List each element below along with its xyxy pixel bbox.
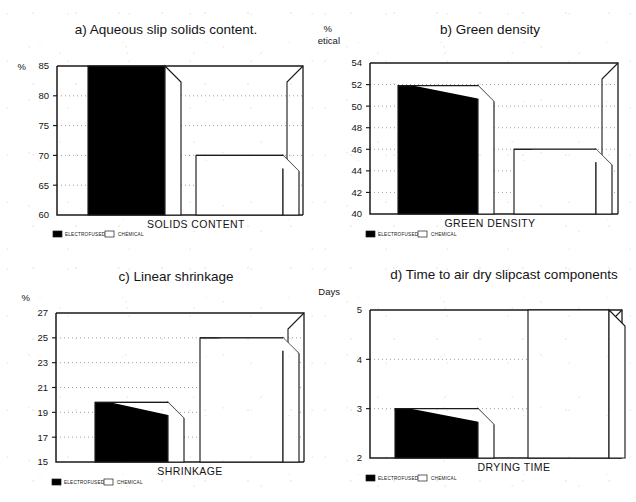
y-axis-tick-label: 27 [37, 307, 48, 318]
bar-chemical [528, 310, 625, 458]
y-axis-tick-label: 40 [351, 208, 362, 219]
y-axis-tick-label: 65 [38, 180, 49, 191]
figure-grid: a) Aqueous slip solids content.%60657075… [0, 0, 636, 502]
chart-panel-b: b) Green density%Theoretical404244464850… [318, 0, 636, 255]
bar-electrofused [95, 402, 184, 462]
bar-electrofused [398, 86, 494, 214]
bar-front-face [200, 338, 283, 462]
legend-label-chemical: CHEMICAL [118, 232, 144, 237]
y-axis-tick-label: 52 [351, 79, 362, 90]
y-axis-tick-label: 5 [357, 304, 362, 315]
legend: ELECTROFUSEDCHEMICAL [52, 479, 143, 485]
legend-label-electrofused: ELECTROFUSED [378, 232, 419, 237]
bar-side-face [478, 86, 494, 214]
y-axis-tick-label: 2 [357, 452, 362, 463]
bar-side-face [283, 338, 299, 462]
y-axis-tick-label: 15 [37, 456, 48, 467]
chart-panel-c: c) Linear shrinkage%15171921232527SHRINK… [0, 255, 318, 502]
y-axis-tick-label: 23 [37, 357, 48, 368]
y-axis-tick-label: 70 [38, 150, 49, 161]
y-axis-tick-label: 46 [351, 144, 362, 155]
y-axis-tick-label: 17 [37, 432, 48, 443]
legend-swatch-electrofused [52, 479, 61, 485]
y-axis-tick-label: 85 [38, 60, 49, 71]
bar-chemical [200, 338, 299, 462]
y-axis-tick-label: 42 [351, 187, 362, 198]
x-axis-label: SHRINKAGE [157, 465, 222, 477]
legend-swatch-chemical [418, 475, 427, 481]
bar-side-face [609, 310, 625, 458]
bar-chemical [196, 155, 299, 215]
y-axis-tick-label: 4 [357, 354, 362, 365]
x-axis-label: SOLIDS CONTENT [147, 218, 245, 230]
y-axis-label: % [324, 23, 333, 34]
chart-panel-a: a) Aqueous slip solids content.%60657075… [0, 0, 318, 255]
bar-side-face [165, 66, 181, 215]
legend-swatch-chemical [104, 479, 113, 485]
legend-label-electrofused: ELECTROFUSED [64, 480, 105, 485]
y-axis-tick-label: 75 [38, 120, 49, 131]
y-axis-tick-label: 3 [357, 403, 362, 414]
x-axis-label: DRYING TIME [478, 461, 551, 473]
y-axis-tick-label: 80 [38, 90, 49, 101]
chart-title: d) Time to air dry slipcast components [390, 267, 618, 282]
y-axis-label: Days [318, 286, 340, 297]
legend: ELECTROFUSEDCHEMICAL [366, 475, 457, 481]
y-axis-tick-label: 19 [37, 407, 48, 418]
chart-d-svg: d) Time to air dry slipcast componentsDa… [318, 255, 636, 502]
y-axis-label-line2: Theoretical [318, 35, 340, 46]
y-axis-tick-label: 25 [37, 332, 48, 343]
legend-swatch-electrofused [366, 475, 375, 481]
legend-swatch-electrofused [53, 231, 62, 237]
chart-panel-d: d) Time to air dry slipcast componentsDa… [318, 255, 636, 502]
legend-swatch-chemical [418, 231, 427, 237]
bar-front-face [398, 86, 478, 214]
chart-b-svg: b) Green density%Theoretical404244464850… [318, 0, 636, 255]
y-axis-tick-label: 50 [351, 101, 362, 112]
y-axis-tick-label: 44 [351, 165, 362, 176]
y-axis-tick-label: 21 [37, 382, 48, 393]
y-axis-label: % [18, 61, 27, 72]
chart-title: c) Linear shrinkage [119, 269, 234, 284]
chart-title: a) Aqueous slip solids content. [75, 22, 257, 37]
y-axis-tick-label: 48 [351, 122, 362, 133]
bar-electrofused [395, 409, 494, 458]
y-axis-label: % [22, 292, 31, 303]
bar-front-face [88, 66, 165, 215]
y-axis-tick-label: 60 [38, 209, 49, 220]
legend: ELECTROFUSEDCHEMICAL [53, 231, 144, 237]
legend-label-electrofused: ELECTROFUSED [378, 476, 419, 481]
bar-electrofused [88, 66, 181, 215]
legend-label-chemical: CHEMICAL [431, 476, 457, 481]
legend-label-chemical: CHEMICAL [431, 232, 457, 237]
chart-a-svg: a) Aqueous slip solids content.%60657075… [0, 0, 318, 255]
legend-swatch-chemical [105, 231, 114, 237]
chart-c-svg: c) Linear shrinkage%15171921232527SHRINK… [0, 255, 318, 502]
bar-chemical [514, 149, 612, 214]
legend-label-electrofused: ELECTROFUSED [65, 232, 106, 237]
y-axis-tick-label: 54 [351, 57, 362, 68]
legend-label-chemical: CHEMICAL [117, 480, 143, 485]
legend: ELECTROFUSEDCHEMICAL [366, 231, 457, 237]
legend-swatch-electrofused [366, 231, 375, 237]
chart-title: b) Green density [440, 22, 540, 37]
x-axis-label: GREEN DENSITY [445, 217, 536, 229]
bar-front-face [528, 310, 609, 458]
